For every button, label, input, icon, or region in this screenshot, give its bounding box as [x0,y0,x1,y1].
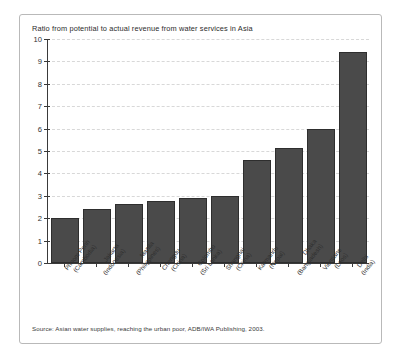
y-axis-tick-label: 8 [38,79,42,88]
bar-slot [145,39,177,263]
y-axis-tick-label: 10 [34,35,42,44]
x-axis-label-slot: Manila(Philippines) [113,265,145,323]
y-axis-tick-label: 5 [38,147,42,156]
y-axis-tick-label: 1 [38,236,42,245]
bar-slot [209,39,241,263]
x-axis-label-slot: Phnom Penh(Cambodia) [49,265,81,323]
y-axis-tick-label: 6 [38,124,42,133]
y-axis-tick-label: 2 [38,214,42,223]
x-axis-label-slot: Jakarta(Indonesia) [81,265,113,323]
y-axis-tick-label: 3 [38,191,42,200]
bar [275,148,303,263]
bar [243,160,271,263]
x-axis-label-slot: Colombo(Sri Lanka) [178,265,210,323]
bar-slot [49,39,81,263]
y-axis-tick [44,263,50,264]
x-axis-label-slot: Dhaka(Bangladesh) [274,265,306,323]
bar-slot [273,39,305,263]
x-axis-label-slot: Delhi(India) [339,265,371,323]
chart-title: Ratio from potential to actual revenue f… [32,24,253,33]
x-axis-labels: Phnom Penh(Cambodia)Jakarta(Indonesia)Ma… [47,265,371,323]
bar-slot [81,39,113,263]
bar-slot [305,39,337,263]
bar-slot [177,39,209,263]
x-axis-label-slot: Chengdu(China) [146,265,178,323]
bar-slot [113,39,145,263]
figure-frame: Ratio from potential to actual revenue f… [19,14,382,344]
y-axis-tick-label: 9 [38,57,42,66]
y-axis-tick-label: 4 [38,169,42,178]
x-axis-label-slot: Katmandu(Nepal) [242,265,274,323]
bar-slot [241,39,273,263]
bar [339,52,367,263]
x-axis-label-slot: Vientiane(Laos) [307,265,339,323]
y-axis-tick-label: 0 [38,259,42,268]
x-axis-label-slot: Shanghai(China) [210,265,242,323]
y-axis-tick-label: 7 [38,102,42,111]
bar-slot [337,39,369,263]
bar-series [47,39,369,263]
source-note: Source: Asian water supplies, reaching t… [32,325,265,332]
plot-area: 012345678910 [47,39,369,263]
